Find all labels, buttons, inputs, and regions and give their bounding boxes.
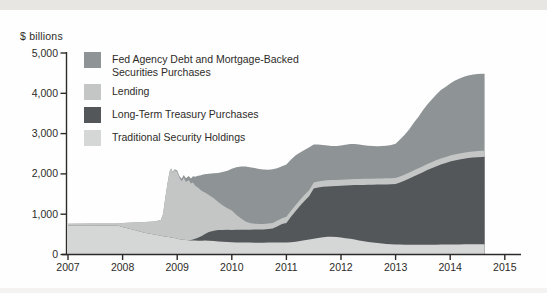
stacked-area-chart: 01,0002,0003,0004,0005,00020072008200920… [0, 0, 547, 293]
legend-swatch-mbs-purchases [84, 52, 101, 68]
legend-swatch-traditional-holdings [84, 130, 101, 146]
y-tick-label: 3,000 [32, 127, 58, 139]
legend-swatch-long-term-treasury [84, 107, 101, 123]
y-tick-label: 0 [52, 248, 58, 260]
legend-item-mbs-purchases: Fed Agency Debt and Mortgage-Backed Secu… [84, 52, 312, 79]
bottom-edge-strip [0, 288, 547, 293]
x-tick-label: 2011 [275, 261, 298, 273]
y-tick-label: 5,000 [32, 47, 58, 59]
x-tick-label: 2007 [56, 261, 80, 273]
x-tick-label: 2010 [220, 261, 244, 273]
legend-item-long-term-treasury: Long-Term Treasury Purchases [84, 107, 258, 123]
x-tick-label: 2009 [166, 261, 190, 273]
y-tick-label: 2,000 [32, 167, 58, 179]
x-tick-label: 2008 [111, 261, 135, 273]
page: $ billions 01,0002,0003,0004,0005,000200… [0, 0, 547, 293]
legend-item-traditional-holdings: Traditional Security Holdings [84, 130, 245, 146]
x-tick-label: 2013 [384, 261, 408, 273]
legend-label: Lending [112, 84, 149, 98]
legend-label: Fed Agency Debt and Mortgage-Backed Secu… [112, 52, 312, 79]
legend-swatch-lending [84, 84, 101, 100]
x-tick-label: 2014 [439, 261, 463, 273]
legend-item-lending: Lending [84, 84, 149, 100]
legend-label: Long-Term Treasury Purchases [112, 107, 258, 121]
y-tick-label: 1,000 [32, 208, 58, 220]
x-tick-label: 2015 [493, 261, 517, 273]
y-tick-label: 4,000 [32, 87, 58, 99]
x-tick-label: 2012 [329, 261, 353, 273]
legend-label: Traditional Security Holdings [112, 130, 245, 144]
